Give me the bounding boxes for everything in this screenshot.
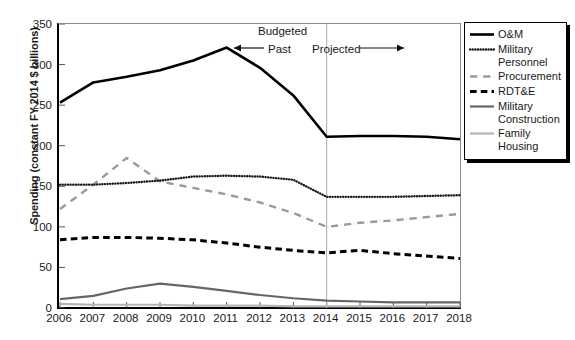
series-line: [60, 284, 460, 303]
legend-label: Family Housing: [498, 127, 538, 152]
x-tick-label: 2014: [313, 312, 339, 324]
x-tick-label: 2015: [346, 312, 372, 324]
plot-area: [57, 23, 461, 309]
y-tick-label: 250: [16, 99, 52, 111]
annotation-projected: Projected: [312, 43, 361, 55]
legend-item[interactable]: Military Personnel: [469, 43, 562, 68]
chart-container: Spending (constant FY 2014 $ billions) 0…: [0, 0, 575, 340]
x-tick-label: 2006: [46, 312, 72, 324]
annotation-past: Past: [268, 43, 291, 55]
x-tick-label: 2011: [213, 312, 238, 324]
legend-label: Military Construction: [498, 100, 560, 125]
y-axis-tick-labels: 050100150200250300350: [16, 0, 52, 340]
legend-label: O&M: [498, 28, 523, 41]
legend-item[interactable]: Military Construction: [469, 100, 562, 125]
annotation-budgeted: Budgeted: [258, 25, 307, 37]
legend-item[interactable]: Family Housing: [469, 127, 562, 152]
legend-item[interactable]: Procurement: [469, 70, 562, 83]
y-tick-label: 50: [16, 261, 52, 273]
legend-swatch-icon: [469, 28, 495, 41]
legend-swatch-icon: [469, 85, 495, 98]
series-line: [60, 176, 460, 197]
x-tick-label: 2007: [80, 312, 106, 324]
x-tick-label: 2009: [146, 312, 172, 324]
x-tick-label: 2017: [413, 312, 439, 324]
x-tick-label: 2018: [446, 312, 472, 324]
legend-swatch-icon: [469, 100, 495, 113]
x-tick-label: 2008: [113, 312, 139, 324]
y-tick-label: 100: [16, 221, 52, 233]
y-tick-label: 300: [16, 59, 52, 71]
legend-item[interactable]: O&M: [469, 28, 562, 41]
series-line: [60, 158, 460, 227]
y-tick-label: 150: [16, 180, 52, 192]
y-tick-label: 200: [16, 140, 52, 152]
legend-item[interactable]: RDT&E: [469, 85, 562, 98]
y-tick-label: 350: [16, 18, 52, 30]
legend-swatch-icon: [469, 70, 495, 83]
chart-legend: O&MMilitary PersonnelProcurementRDT&EMil…: [464, 22, 567, 160]
x-tick-label: 2010: [180, 312, 206, 324]
legend-swatch-icon: [469, 43, 495, 56]
x-tick-label: 2016: [380, 312, 406, 324]
x-axis-tick-labels: 2006200720082009201020112012201320142015…: [0, 312, 575, 334]
series-line: [60, 48, 460, 140]
x-tick-label: 2012: [246, 312, 272, 324]
legend-label: RDT&E: [498, 85, 535, 98]
legend-label: Procurement: [498, 70, 561, 83]
legend-swatch-icon: [469, 127, 495, 140]
legend-label: Military Personnel: [498, 43, 548, 68]
series-line: [60, 237, 460, 258]
plot-lines: [59, 24, 461, 308]
x-tick-label: 2013: [280, 312, 306, 324]
